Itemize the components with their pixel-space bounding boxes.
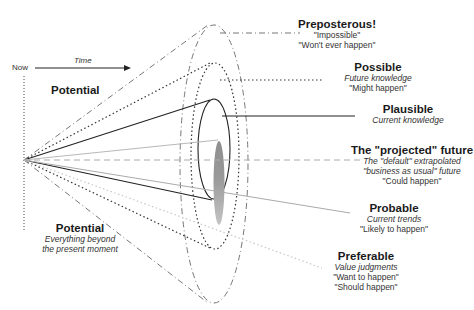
projected-future-label: The "projected" future The "default" ext… (350, 144, 474, 187)
potential-bottom-label: Potential Everything beyond the present … (40, 222, 120, 255)
time-arrow (35, 65, 131, 71)
probable-line (24, 160, 350, 213)
probable-label: Probable Current trends "Likely to happe… (344, 202, 444, 235)
potential-top-label: Potential (51, 84, 100, 97)
preposterous-label: Preposterous! "Impossible" "Won't ever h… (282, 18, 392, 51)
plausible-cone (24, 99, 355, 200)
possible-label: Possible Future knowledge "Might happen" (323, 61, 433, 94)
now-label: Now (12, 63, 28, 72)
preposterous-cone (24, 25, 300, 303)
time-label: Time (74, 56, 92, 65)
preferable-label: Preferable Value judgments "Want to happ… (316, 250, 416, 293)
plausible-label: Plausible Current knowledge (358, 103, 458, 126)
